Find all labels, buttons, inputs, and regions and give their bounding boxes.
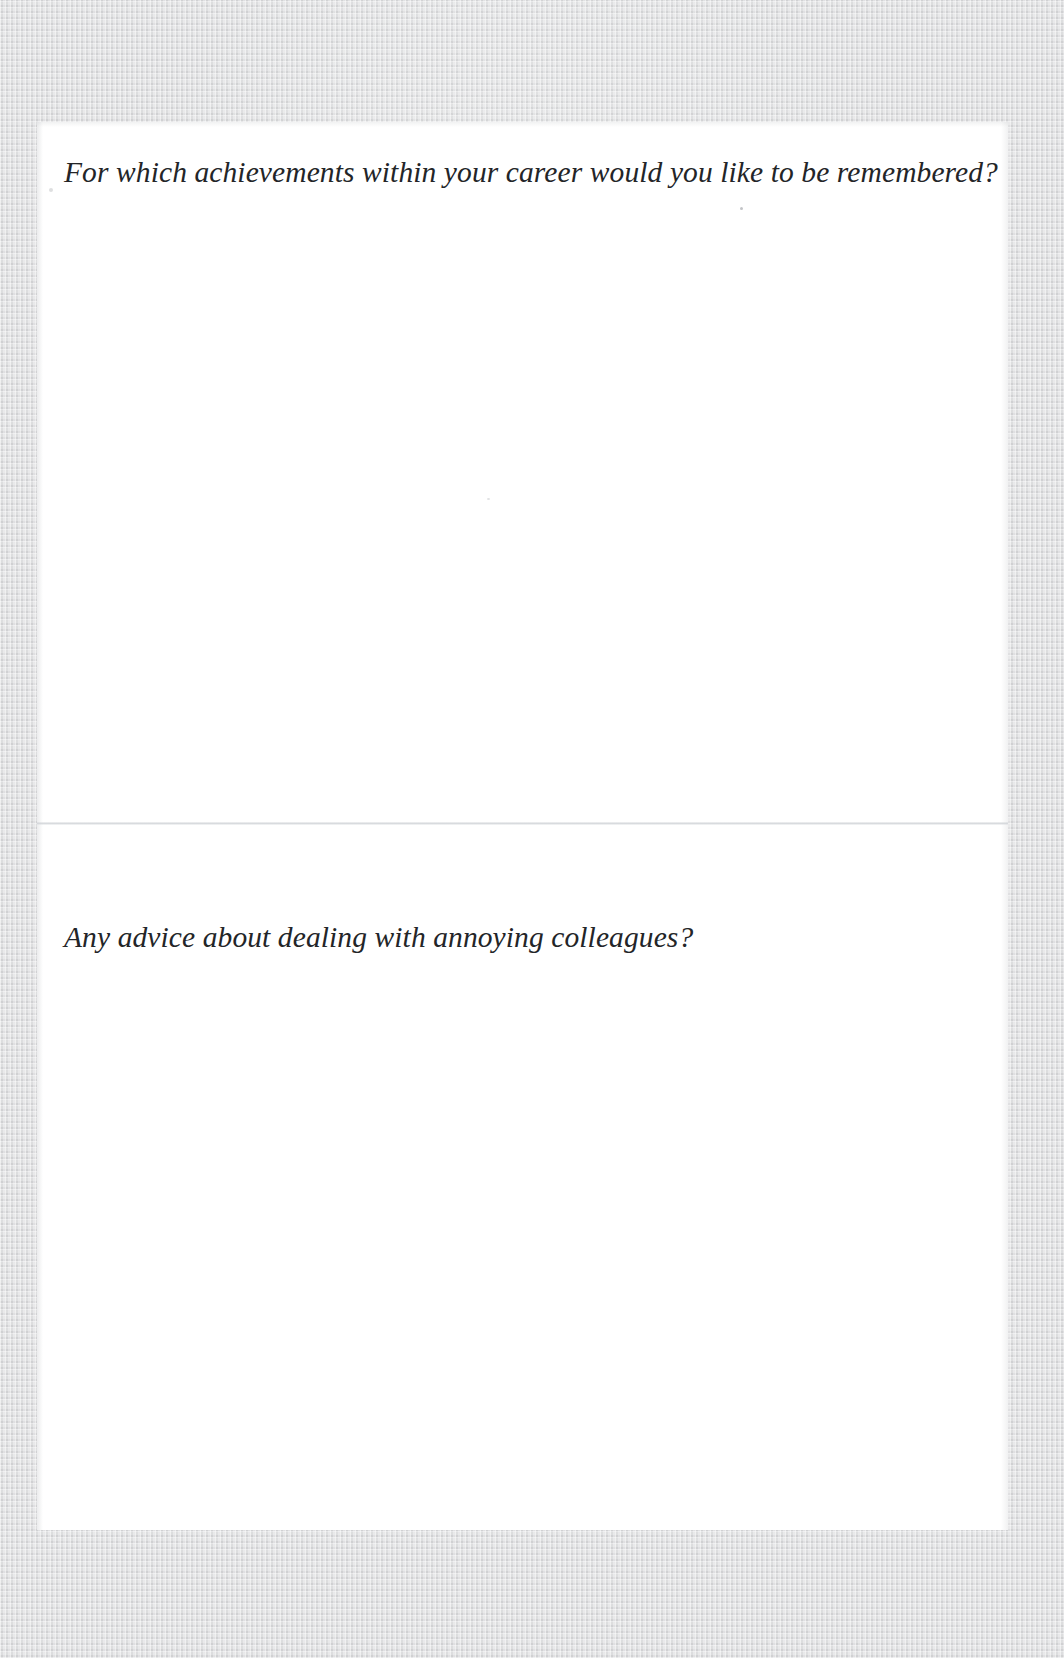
question-prompt-1: For which achievements within your caree… (64, 155, 978, 190)
answer-area-2[interactable] (64, 975, 978, 1520)
question-block-1: For which achievements within your caree… (37, 122, 1008, 822)
question-block-2: Any advice about dealing with annoying c… (37, 825, 1008, 1530)
scan-speck-icon (740, 207, 743, 210)
scan-speck-icon (49, 188, 53, 192)
answer-area-1[interactable] (64, 212, 978, 812)
question-prompt-2: Any advice about dealing with annoying c… (64, 920, 978, 955)
scanned-page-sheet: For which achievements within your caree… (37, 122, 1008, 1530)
